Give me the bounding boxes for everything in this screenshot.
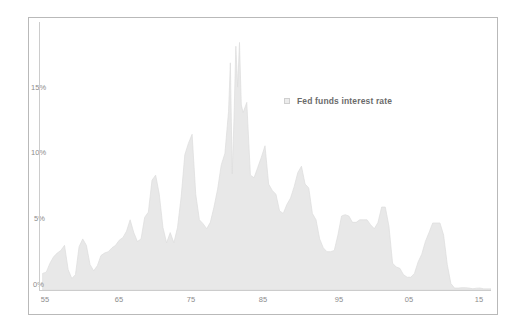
x-axis-line [39,290,491,291]
chart-legend: Fed funds interest rate [284,96,392,106]
area-series-fed-funds-interest-rate [43,42,491,290]
x-axis-label-55: 55 [37,296,53,304]
x-axis-label-65: 65 [111,296,127,304]
y-axis-line [39,22,40,291]
x-axis-label-95: 95 [331,296,347,304]
plot-area: 15% 10% 5% 0% 55 65 75 85 95 05 15 Fed f… [29,18,497,314]
legend-swatch-icon [284,98,290,104]
x-axis-label-05: 05 [401,296,417,304]
x-axis-label-75: 75 [183,296,199,304]
area-chart-svg [39,22,491,290]
x-axis-label-15: 15 [471,296,487,304]
legend-item-label: Fed funds interest rate [297,96,392,106]
x-axis-label-85: 85 [255,296,271,304]
chart-frame: 15% 10% 5% 0% 55 65 75 85 95 05 15 Fed f… [28,17,498,315]
